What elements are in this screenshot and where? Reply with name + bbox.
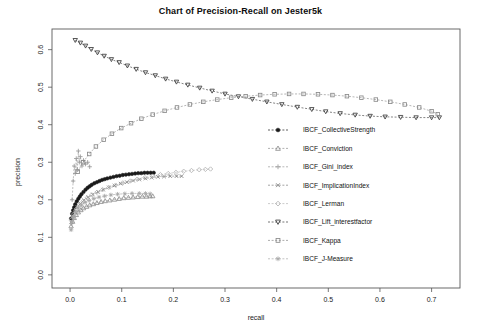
marker-triangle-down	[78, 41, 82, 45]
x-tick-label: 0.0	[65, 296, 75, 303]
marker-plus	[276, 164, 281, 169]
legend-item-IBCF_Kappa[interactable]: IBCF_Kappa	[268, 237, 341, 245]
y-tick-label: 0.3	[37, 157, 44, 167]
marker-star	[123, 192, 127, 196]
marker-star	[143, 191, 147, 195]
marker-triangle-down	[338, 112, 342, 116]
legend-label: IBCF_CollectiveStrength	[303, 126, 376, 134]
series-IBCF_CollectiveStrength	[69, 171, 155, 220]
data-series-group	[69, 39, 442, 233]
marker-triangle-down	[134, 67, 138, 71]
plot-frame	[52, 29, 460, 288]
x-tick-label: 0.4	[272, 296, 282, 303]
series-IBCF_Kappa	[76, 92, 439, 173]
marker-triangle-down	[310, 108, 314, 112]
x-tick-label: 0.5	[323, 296, 333, 303]
series-IBCF_Lift_interestfactor	[73, 39, 442, 120]
marker-circle-filled	[276, 128, 280, 132]
marker-triangle-up	[103, 199, 107, 203]
legend-item-IBCF_Gini_index[interactable]: IBCF_Gini_index	[268, 163, 354, 171]
legend-item-IBCF_ImplicationIndex[interactable]: IBCF_ImplicationIndex	[268, 182, 370, 190]
marker-triangle-down	[276, 220, 281, 224]
y-axis-label: precision	[14, 158, 22, 186]
y-tick-label: 0.1	[37, 232, 44, 242]
marker-triangle-down	[117, 61, 121, 65]
marker-star	[115, 192, 119, 196]
x-tick-label: 0.3	[220, 296, 230, 303]
marker-star	[69, 228, 73, 232]
legend-label: IBCF_Lift_interestfactor	[303, 218, 373, 226]
marker-triangle-down	[186, 83, 190, 87]
marker-star	[74, 210, 78, 214]
legend-item-IBCF_Lift_interestfactor[interactable]: IBCF_Lift_interestfactor	[268, 218, 373, 226]
marker-star	[70, 220, 74, 224]
legend-label: IBCF_Gini_index	[303, 163, 354, 171]
marker-star	[71, 214, 75, 218]
legend-item-IBCF_Lerman[interactable]: IBCF_Lerman	[268, 200, 344, 208]
marker-star	[109, 193, 113, 197]
marker-star	[137, 191, 141, 195]
x-tick-label: 0.7	[427, 296, 437, 303]
y-tick-label: 0.0	[37, 270, 44, 280]
y-axis-ticks: 0.00.10.20.30.40.50.6	[37, 45, 52, 280]
marker-star	[83, 200, 87, 204]
chart-page: Chart of Precision-Recall on Jester5k 0.…	[0, 0, 481, 335]
series-IBCF_Conviction	[69, 194, 155, 228]
y-tick-label: 0.2	[37, 195, 44, 205]
precision-recall-plot: 0.00.10.20.30.40.50.60.7 0.00.10.20.30.4…	[0, 0, 481, 335]
marker-star	[92, 196, 96, 200]
marker-triangle-up	[108, 198, 112, 202]
legend-label: IBCF_Kappa	[303, 237, 341, 245]
marker-triangle-down	[295, 105, 299, 109]
legend-label: IBCF_ImplicationIndex	[303, 182, 370, 190]
marker-star	[148, 192, 152, 196]
legend-label: IBCF_Conviction	[303, 145, 353, 153]
marker-triangle-down	[437, 116, 441, 120]
marker-diamond	[208, 167, 212, 171]
marker-triangle-up	[276, 146, 281, 150]
marker-triangle-down	[398, 115, 402, 119]
marker-plus	[88, 165, 92, 169]
marker-star	[97, 195, 101, 199]
marker-star	[276, 256, 281, 261]
legend-item-IBCF_Conviction[interactable]: IBCF_Conviction	[268, 145, 353, 153]
legend-item-IBCF_CollectiveStrength[interactable]: IBCF_CollectiveStrength	[268, 126, 376, 134]
marker-triangle-down	[324, 110, 328, 114]
legend-label: IBCF_Lerman	[303, 200, 344, 208]
marker-plus	[70, 198, 74, 202]
marker-triangle-down	[414, 116, 418, 120]
marker-star	[102, 194, 106, 198]
x-tick-label: 0.1	[117, 296, 127, 303]
marker-star	[130, 191, 134, 195]
marker-plus	[76, 149, 80, 153]
x-tick-label: 0.2	[168, 296, 178, 303]
legend-label: IBCF_J-Measure	[303, 255, 353, 263]
marker-triangle-down	[210, 89, 214, 93]
marker-star	[87, 198, 91, 202]
x-tick-label: 0.6	[375, 296, 385, 303]
marker-square	[151, 113, 155, 117]
y-tick-label: 0.6	[37, 45, 44, 55]
marker-plus	[71, 179, 75, 183]
y-tick-label: 0.5	[37, 82, 44, 92]
marker-star	[79, 203, 83, 207]
x-axis-label: recall	[248, 314, 265, 321]
x-axis-ticks: 0.00.10.20.30.40.50.60.7	[65, 288, 436, 303]
marker-triangle-up	[122, 196, 126, 200]
y-tick-label: 0.4	[37, 120, 44, 130]
legend-item-IBCF_J-Measure[interactable]: IBCF_J-Measure	[268, 255, 353, 263]
legend: IBCF_CollectiveStrengthIBCF_ConvictionIB…	[268, 126, 376, 263]
